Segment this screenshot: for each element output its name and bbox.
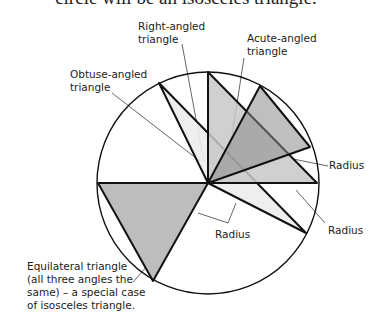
label-equilateral: Equilateral triangle (all three angles t… bbox=[27, 260, 146, 312]
label-acute-angled: Acute-angled triangle bbox=[247, 32, 317, 58]
label-radius-lower-right: Radius bbox=[328, 224, 363, 237]
label-right-angled: Right-angled triangle bbox=[138, 20, 205, 46]
label-radius-bottom: Radius bbox=[215, 228, 250, 241]
leader-radius3 bbox=[296, 190, 325, 223]
radius-bracket bbox=[198, 203, 236, 223]
label-obtuse-angled: Obtuse-angled triangle bbox=[70, 68, 147, 94]
label-radius-right: Radius bbox=[329, 159, 364, 172]
